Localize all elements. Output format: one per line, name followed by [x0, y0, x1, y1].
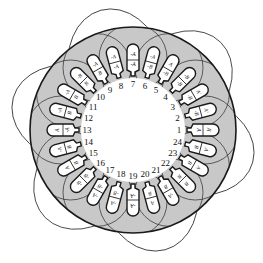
slot: -A-A	[127, 44, 139, 76]
slot-number: 10	[96, 92, 106, 102]
slot-number: 22	[161, 158, 170, 168]
slot-number: 21	[152, 165, 161, 175]
slot-number: 13	[83, 125, 93, 135]
slot-inner-label: -A	[130, 61, 136, 67]
slot-number: 3	[171, 102, 176, 112]
slot-number: 4	[163, 92, 168, 102]
slot-number: 14	[84, 137, 94, 147]
slot-number: 2	[175, 113, 180, 123]
slot-number: 19	[129, 171, 139, 181]
slot-outer-label: A	[54, 128, 60, 133]
slot-inner-label: A	[196, 127, 202, 132]
slot-number: 17	[106, 165, 116, 175]
slot-outer-label: A'	[206, 127, 212, 133]
slot-inner-label: -A	[64, 127, 70, 133]
slot: A-A	[47, 124, 79, 136]
slot-number: 8	[119, 81, 124, 91]
slot-number: 15	[89, 148, 99, 158]
slot-number: 11	[89, 102, 98, 112]
slot: A'A	[187, 124, 219, 136]
slot-number: 6	[143, 81, 148, 91]
slot-number: 7	[131, 79, 136, 89]
slot: -A-A	[127, 184, 139, 216]
slot-number: 9	[108, 85, 113, 95]
slot-outer-label: -A	[130, 51, 136, 57]
slot-number: 1	[177, 125, 182, 135]
slot-number: 18	[117, 169, 127, 179]
slot-number: 12	[84, 113, 93, 123]
slot-inner-label: -A	[130, 193, 136, 199]
stator-winding-diagram: A'AA'-BA'-B-B-BA-B-A-B-A-A-A-A-AB-BB-AB-…	[0, 0, 263, 263]
slot-number: 20	[140, 169, 150, 179]
slot-number: 16	[96, 158, 106, 168]
slot-number: 5	[154, 85, 159, 95]
slot-number: 24	[173, 137, 183, 147]
slot-outer-label: -A	[130, 203, 136, 209]
stator-diagram-svg: A'AA'-BA'-B-B-BA-B-A-B-A-A-A-A-AB-BB-AB-…	[0, 0, 263, 263]
slot-number: 23	[168, 148, 178, 158]
